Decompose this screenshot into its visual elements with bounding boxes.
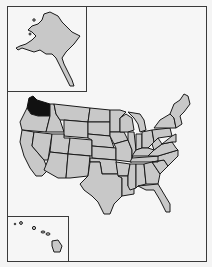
us-map xyxy=(0,0,212,267)
hawaii xyxy=(14,222,62,252)
alaska xyxy=(16,12,80,86)
contiguous-us xyxy=(20,94,190,214)
